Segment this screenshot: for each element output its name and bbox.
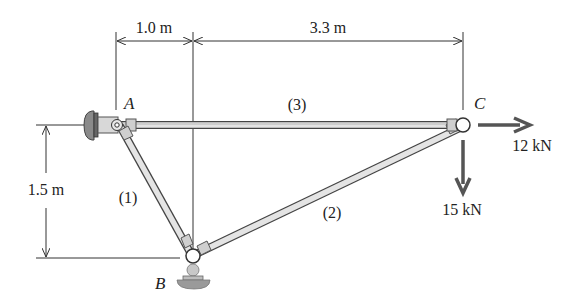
joint-label-a: A [123,94,135,113]
dimension-label-1-5m: 1.5 m [28,181,65,198]
member-label-2: (2) [323,204,342,222]
member-3 [118,124,463,125]
truss-diagram: 1.0 m 3.3 m 1.5 m [0,0,577,306]
dimension-label-1m: 1.0 m [136,19,173,36]
end-fittings [119,119,460,255]
roller-support-b [177,249,210,289]
joint-label-b: B [155,274,166,293]
pin-joint-a [112,120,123,131]
load-label-15kn: 15 kN [442,201,482,218]
joint-label-c: C [474,94,486,113]
member-label-3: (3) [288,96,307,114]
dimension-label-3-3m: 3.3 m [310,19,347,36]
load-label-12kn: 12 kN [512,137,552,154]
pin-joint-c [456,118,470,132]
member-label-1: (1) [119,189,138,207]
load-arrow-horizontal [478,118,530,132]
member-2 [194,127,462,255]
load-arrow-vertical [456,140,470,193]
